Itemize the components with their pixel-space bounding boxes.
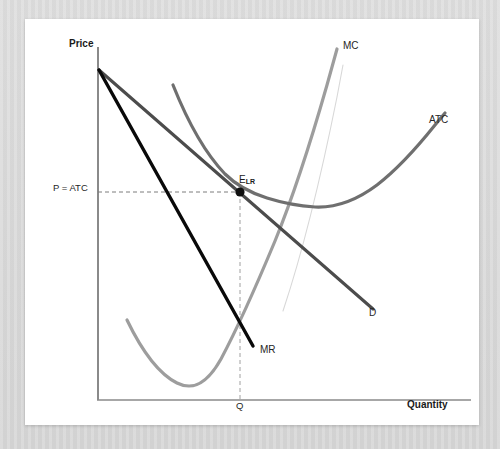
axes-group	[97, 47, 471, 400]
x-axis-label: Quantity	[407, 399, 448, 410]
mr-curve-label: MR	[260, 344, 276, 355]
equilibrium-point-label-main: E	[239, 174, 246, 185]
page-root: Price Quantity P = ATC Q MC ATC D MR ELR	[0, 0, 500, 449]
demand-curve	[99, 70, 373, 309]
chart-svg	[25, 19, 479, 425]
y-tick-label-price-equals-atc: P = ATC	[53, 182, 88, 193]
equilibrium-point-label-sub: LR	[246, 178, 255, 185]
mc-curve	[127, 49, 337, 386]
equilibrium-point-marker	[235, 187, 244, 196]
demand-curve-label: D	[369, 307, 376, 318]
chart-plot-area: Price Quantity P = ATC Q MC ATC D MR ELR	[25, 19, 479, 425]
mc-curve-label: MC	[343, 40, 359, 51]
equilibrium-point-label: ELR	[239, 174, 255, 185]
atc-curve-label: ATC	[429, 114, 448, 125]
x-tick-label-quantity: Q	[236, 400, 243, 411]
y-axis-label: Price	[69, 38, 93, 49]
guide-lines-group	[98, 192, 240, 400]
mr-curve	[99, 70, 253, 346]
figure-card: Price Quantity P = ATC Q MC ATC D MR ELR	[25, 19, 479, 425]
